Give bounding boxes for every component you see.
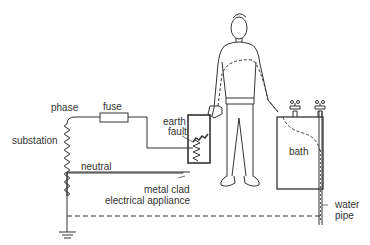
- water-pipe-label-line1: water: [335, 199, 359, 210]
- bath-label: bath: [289, 146, 308, 157]
- fuse-icon: [100, 113, 128, 122]
- earth-fault-spark-icon: [193, 134, 208, 142]
- water-pipe-label-line2: pipe: [335, 210, 354, 221]
- neutral-label: neutral: [81, 161, 112, 172]
- heating-element-icon: [193, 140, 200, 161]
- earth-fault-label-line2: fault: [168, 126, 187, 137]
- phase-wire: [67, 117, 100, 124]
- appliance-label-line1: metal clad: [144, 184, 190, 195]
- appliance-label-line2: electrical appliance: [105, 195, 190, 206]
- tap-icons: [290, 101, 325, 118]
- ground-icon: [59, 232, 76, 238]
- substation-label: substation: [12, 135, 58, 146]
- fuse-label: fuse: [103, 101, 122, 112]
- phase-label: phase: [51, 102, 78, 113]
- person-figure-icon: [208, 14, 278, 186]
